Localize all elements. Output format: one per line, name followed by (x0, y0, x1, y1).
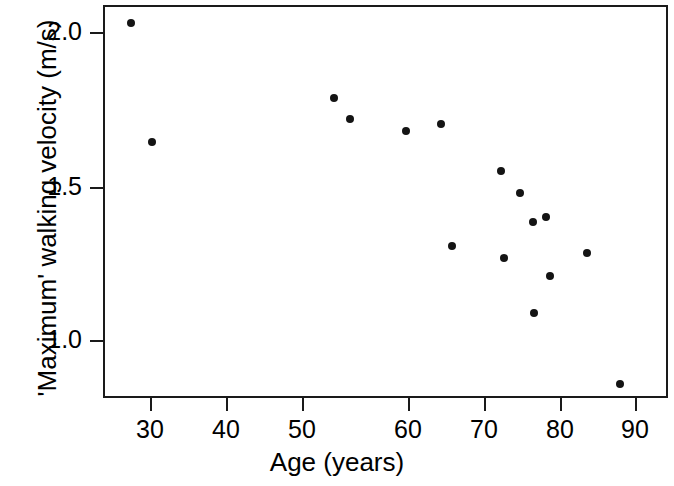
data-point (127, 19, 135, 27)
x-tick-label: 70 (454, 417, 514, 442)
data-point (546, 272, 554, 280)
data-point (437, 120, 445, 128)
x-tick-mark (150, 398, 152, 411)
y-axis-title: 'Maximum' walking velocity (m/s) (34, 0, 60, 423)
x-tick-label: 30 (120, 417, 180, 442)
x-tick-label: 60 (378, 417, 438, 442)
x-tick-mark (560, 398, 562, 411)
data-point (330, 94, 338, 102)
x-tick-mark (302, 398, 304, 411)
x-tick-mark (408, 398, 410, 411)
plot-area (105, 7, 666, 396)
data-point (542, 213, 550, 221)
x-axis-title: Age (years) (0, 449, 674, 475)
data-point (583, 249, 591, 257)
x-tick-mark (226, 398, 228, 411)
data-point (497, 167, 505, 175)
x-tick-mark (484, 398, 486, 411)
data-point (448, 242, 456, 250)
x-tick-mark (635, 398, 637, 411)
data-point (529, 218, 537, 226)
y-tick-mark (90, 187, 103, 189)
x-tick-label: 50 (272, 417, 332, 442)
x-tick-label: 90 (605, 417, 665, 442)
y-tick-mark (90, 32, 103, 34)
x-tick-label: 80 (530, 417, 590, 442)
data-point (516, 189, 524, 197)
data-point (616, 380, 624, 388)
plot-frame (103, 5, 668, 398)
data-point (346, 115, 354, 123)
scatter-plot-figure: 2.01.51.0 30405060708090 Age (years) 'Ma… (0, 0, 674, 486)
data-point (148, 138, 156, 146)
data-point (402, 127, 410, 135)
y-tick-mark (90, 340, 103, 342)
x-tick-label: 40 (196, 417, 256, 442)
data-point (500, 254, 508, 262)
data-point (530, 309, 538, 317)
